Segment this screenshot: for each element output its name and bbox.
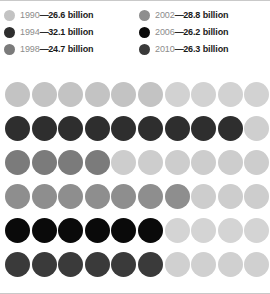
dot-filled bbox=[138, 184, 163, 209]
dot-empty bbox=[191, 252, 216, 277]
dot-filled bbox=[58, 150, 83, 175]
dot-row-2010 bbox=[0, 247, 270, 281]
legend-value-2002: 28.8 billion bbox=[183, 10, 228, 20]
legend-column-left: 1990—26.6 billion 1994—32.1 billion 1998… bbox=[0, 7, 135, 58]
dot-empty bbox=[191, 218, 216, 243]
dot-filled bbox=[5, 82, 30, 107]
dot-empty bbox=[111, 150, 136, 175]
dot-empty bbox=[218, 218, 243, 243]
dot-filled bbox=[85, 150, 110, 175]
legend-swatch-1990 bbox=[4, 10, 15, 21]
chart-legend: 1990—26.6 billion 1994—32.1 billion 1998… bbox=[0, 7, 270, 58]
dot-empty bbox=[218, 150, 243, 175]
legend-column-right: 2002—28.8 billion 2006—26.2 billion 2010… bbox=[135, 7, 270, 58]
dot-empty bbox=[244, 218, 269, 243]
legend-label-2002: 2002—28.8 billion bbox=[155, 10, 228, 21]
dot-filled bbox=[32, 150, 57, 175]
legend-separator: — bbox=[40, 44, 49, 54]
dot-matrix-chart: 1990—26.6 billion 1994—32.1 billion 1998… bbox=[0, 0, 270, 294]
dot-filled bbox=[85, 116, 110, 141]
legend-value-1998: 24.7 billion bbox=[48, 44, 93, 54]
dot-filled bbox=[85, 218, 110, 243]
dot-filled bbox=[5, 116, 30, 141]
dot-filled bbox=[165, 184, 190, 209]
dot-empty bbox=[244, 82, 269, 107]
dot-filled bbox=[5, 218, 30, 243]
dot-filled bbox=[32, 116, 57, 141]
dot-filled bbox=[138, 252, 163, 277]
dot-filled bbox=[58, 116, 83, 141]
dot-filled bbox=[111, 252, 136, 277]
dot-empty bbox=[165, 82, 190, 107]
legend-label-1998: 1998—24.7 billion bbox=[20, 44, 93, 55]
dot-row-1998 bbox=[0, 145, 270, 179]
dot-empty bbox=[191, 184, 216, 209]
legend-year-1994: 1994 bbox=[20, 27, 40, 37]
dot-filled bbox=[32, 82, 57, 107]
legend-item-1994: 1994—32.1 billion bbox=[4, 24, 135, 41]
dot-filled bbox=[58, 218, 83, 243]
dot-filled bbox=[138, 116, 163, 141]
dot-filled bbox=[138, 82, 163, 107]
legend-value-1990: 26.6 billion bbox=[48, 10, 93, 20]
legend-swatch-2002 bbox=[139, 10, 150, 21]
legend-swatch-2010 bbox=[139, 44, 150, 55]
legend-item-2006: 2006—26.2 billion bbox=[139, 24, 270, 41]
legend-label-1990: 1990—26.6 billion bbox=[20, 10, 93, 21]
legend-separator: — bbox=[175, 10, 184, 20]
legend-item-2010: 2010—26.3 billion bbox=[139, 41, 270, 58]
legend-separator: — bbox=[40, 10, 49, 20]
dot-filled bbox=[111, 184, 136, 209]
dot-empty bbox=[165, 218, 190, 243]
legend-swatch-1998 bbox=[4, 44, 15, 55]
legend-value-2006: 26.2 billion bbox=[183, 27, 228, 37]
dot-row-2006 bbox=[0, 213, 270, 247]
legend-label-2010: 2010—26.3 billion bbox=[155, 44, 228, 55]
dot-filled bbox=[138, 218, 163, 243]
dot-empty bbox=[218, 252, 243, 277]
dot-grid bbox=[0, 77, 270, 281]
dot-filled bbox=[5, 252, 30, 277]
dot-filled bbox=[85, 82, 110, 107]
dot-filled bbox=[5, 150, 30, 175]
dot-filled bbox=[85, 252, 110, 277]
legend-item-1990: 1990—26.6 billion bbox=[4, 7, 135, 24]
dot-filled bbox=[32, 218, 57, 243]
legend-year-2002: 2002 bbox=[155, 10, 175, 20]
legend-label-1994: 1994—32.1 billion bbox=[20, 27, 93, 38]
dot-empty bbox=[218, 82, 243, 107]
dot-empty bbox=[244, 252, 269, 277]
legend-separator: — bbox=[40, 27, 49, 37]
dot-filled bbox=[165, 116, 190, 141]
dot-filled bbox=[5, 184, 30, 209]
dot-empty bbox=[244, 116, 269, 141]
legend-label-2006: 2006—26.2 billion bbox=[155, 27, 228, 38]
dot-filled bbox=[58, 252, 83, 277]
dot-row-1994 bbox=[0, 111, 270, 145]
legend-year-2010: 2010 bbox=[155, 44, 175, 54]
dot-empty bbox=[138, 150, 163, 175]
dot-filled bbox=[85, 184, 110, 209]
legend-separator: — bbox=[175, 44, 184, 54]
legend-swatch-1994 bbox=[4, 27, 15, 38]
dot-filled bbox=[58, 184, 83, 209]
dot-filled bbox=[58, 82, 83, 107]
legend-value-2010: 26.3 billion bbox=[183, 44, 228, 54]
legend-year-1998: 1998 bbox=[20, 44, 40, 54]
dot-row-2002 bbox=[0, 179, 270, 213]
dot-filled bbox=[218, 116, 243, 141]
legend-value-1994: 32.1 billion bbox=[48, 27, 93, 37]
dot-empty bbox=[165, 252, 190, 277]
dot-empty bbox=[191, 82, 216, 107]
dot-empty bbox=[218, 184, 243, 209]
legend-year-2006: 2006 bbox=[155, 27, 175, 37]
dot-filled bbox=[111, 218, 136, 243]
legend-separator: — bbox=[175, 27, 184, 37]
dot-filled bbox=[111, 116, 136, 141]
legend-year-1990: 1990 bbox=[20, 10, 40, 20]
legend-item-1998: 1998—24.7 billion bbox=[4, 41, 135, 58]
legend-swatch-2006 bbox=[139, 27, 150, 38]
dot-filled bbox=[191, 116, 216, 141]
dot-filled bbox=[32, 252, 57, 277]
dot-filled bbox=[111, 82, 136, 107]
